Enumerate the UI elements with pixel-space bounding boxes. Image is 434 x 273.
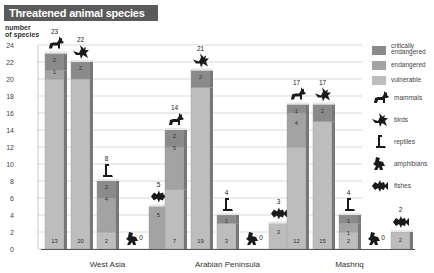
bar-birds: 22022 [71,36,93,249]
legend-item-critically-endangered: criticallyendangered [372,42,426,56]
bar-side [116,232,119,249]
bar-top [165,128,187,130]
y-tick-label: 8 [10,178,14,185]
bar-total-label: 4 [347,189,351,196]
bar-total-label: 0 [381,234,385,241]
bar-segment-endangered [287,113,306,147]
segment-value-label: 15 [319,238,326,244]
y-tick-label: 18 [6,93,14,100]
bar-top [191,69,213,71]
group-label: Mashriq [335,260,363,269]
bar-total-label: 8 [105,155,109,162]
segment-value-label: 13 [51,238,58,244]
bird-icon [73,45,89,59]
bar-mammals: 25714 [165,104,187,249]
bar-side [358,215,361,224]
bird-icon [193,54,209,68]
y-tick-label: 4 [10,212,14,219]
bar-side [64,54,67,71]
bar-side [184,190,187,250]
bar-segment-vulnerable [313,122,332,250]
group-label: West Asia [90,260,126,269]
bar-total-label: 17 [319,79,327,86]
bar-total-label: 4 [225,189,229,196]
frog-icon [373,157,385,170]
bar-total-label: 17 [293,79,301,86]
y-tick-label: 12 [6,144,14,151]
bar-side [306,105,309,114]
bar-segment-endangered [165,147,184,190]
y-tick-label: 24 [6,42,14,49]
bar-side [64,79,67,249]
bar-side [306,113,309,147]
bar-birds: 21517 [313,79,335,250]
legend-item-endangered: endangered [372,61,426,70]
bar-total-label: 0 [139,234,143,241]
y-tick-label: 6 [10,195,14,202]
bar-side [116,181,119,198]
bar-total-label: 23 [51,28,59,35]
bar-segment-vulnerable [191,88,210,250]
wolf-icon [169,113,184,125]
bar-top [339,213,361,215]
bar-top [313,103,335,105]
bar-side [236,215,239,224]
legend-label: amphibians [394,160,428,168]
fish-icon [271,208,287,220]
group-labels: West AsiaArabian PeninsulaMashriq [41,250,415,270]
bar-side [236,224,239,250]
bar-mammals: 211323 [45,28,67,250]
bar-top [97,179,119,181]
legend-swatch [372,76,386,85]
bird-icon [315,88,331,102]
reptile-icon [103,164,113,177]
y-tick-label: 2 [10,229,14,236]
y-tick-label: 20 [6,76,14,83]
legend-item-vulnerable: vulnerable [372,76,421,85]
frog-icon [368,232,380,245]
legend-swatch [372,61,386,70]
chart-canvas: 024681012141618202224 211323220222428055… [0,0,434,273]
bar-birds: 21921 [191,45,213,250]
legend-label: mammals [394,94,423,101]
bar-side [332,122,335,250]
bar-fishes: 22 [391,206,413,249]
bar-top [217,213,239,215]
bar-side [306,147,309,249]
legend-label: reptiles [394,138,416,146]
bar-total-label: 21 [197,45,205,52]
bar-mammals: 141217 [287,79,309,250]
fish-icon [393,216,409,228]
segment-value-label: 20 [77,238,84,244]
bar-total-label: 14 [171,104,179,111]
legend-label: birds [394,116,409,123]
y-tick-label: 14 [6,127,14,134]
segment-value-label: 19 [197,238,204,244]
y-tick-label: 22 [6,59,14,66]
bar-top [45,52,67,54]
bar-side [90,79,93,249]
legend-label: endangered [391,61,426,69]
bird-icon [372,113,388,127]
wolf-icon [374,91,389,103]
bar-segment-endangered [97,198,116,232]
legend-label: vulnerable [391,76,421,83]
frog-icon [126,232,138,245]
group-label: Arabian Peninsula [195,260,260,269]
bar-side [358,232,361,249]
y-tick-label: 0 [10,246,14,253]
bar-amphibians: 0 [126,232,143,245]
bar-top [391,230,413,232]
bar-reptiles: 2428 [97,155,119,249]
segment-value-label: 12 [293,238,300,244]
frog-icon [246,232,258,245]
legend-swatch [372,46,386,55]
bar-total-label: 5 [157,181,161,188]
bar-segment-vulnerable [287,147,306,249]
bar-side [210,88,213,250]
bar-top [287,103,309,105]
bar-side [184,130,187,147]
bar-side [210,71,213,88]
bar-side [90,62,93,79]
y-tick-label: 10 [6,161,14,168]
